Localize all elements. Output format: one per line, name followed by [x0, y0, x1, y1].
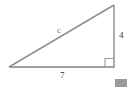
- right-angle-marker-icon: [105, 59, 114, 68]
- right-triangle-graphic: [0, 0, 132, 89]
- hypotenuse-line: [9, 5, 114, 67]
- vertical-leg-label: 4: [119, 31, 124, 40]
- hypotenuse-label: c: [57, 26, 61, 35]
- corner-swatch: [115, 79, 127, 87]
- figure-canvas: c 4 7: [0, 0, 132, 89]
- horizontal-leg-label: 7: [60, 71, 65, 80]
